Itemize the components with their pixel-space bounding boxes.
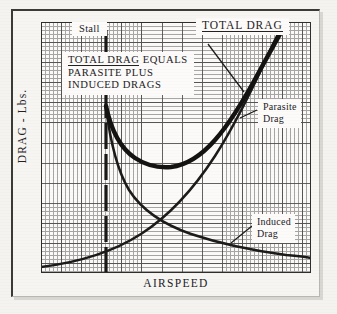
note-line-3: INDUCED DRAGS (68, 79, 188, 92)
note-line-1: TOTAL DRAG EQUALS (68, 54, 188, 67)
note-line-2: PARASITE PLUS (68, 67, 188, 80)
induced-drag-label-line-2: Drag (257, 228, 291, 240)
induced-drag-label-line-1: Induced (257, 216, 291, 228)
y-axis-title: DRAG - Lbs. (16, 66, 28, 186)
note-line-1-rest: EQUALS (139, 54, 187, 65)
x-axis-title: AIRSPEED (41, 277, 311, 289)
stall-label: Stall (72, 22, 107, 36)
total-drag-label: TOTAL DRAG (196, 18, 289, 35)
note-line-1-underlined: TOTAL DRAG (68, 54, 139, 66)
induced-drag-label: Induced Drag (252, 214, 295, 243)
drag-equation-note: TOTAL DRAG EQUALS PARASITE PLUS INDUCED … (62, 52, 194, 95)
parasite-drag-label: Parasite Drag (258, 99, 301, 128)
total-drag-label-text: TOTAL DRAG (202, 19, 283, 32)
parasite-drag-label-line-1: Parasite (263, 101, 297, 113)
drag-curve-figure: DRAG - Lbs. Stall TOTAL DRAG TOTA (0, 0, 337, 314)
parasite-drag-label-line-2: Drag (263, 113, 297, 125)
